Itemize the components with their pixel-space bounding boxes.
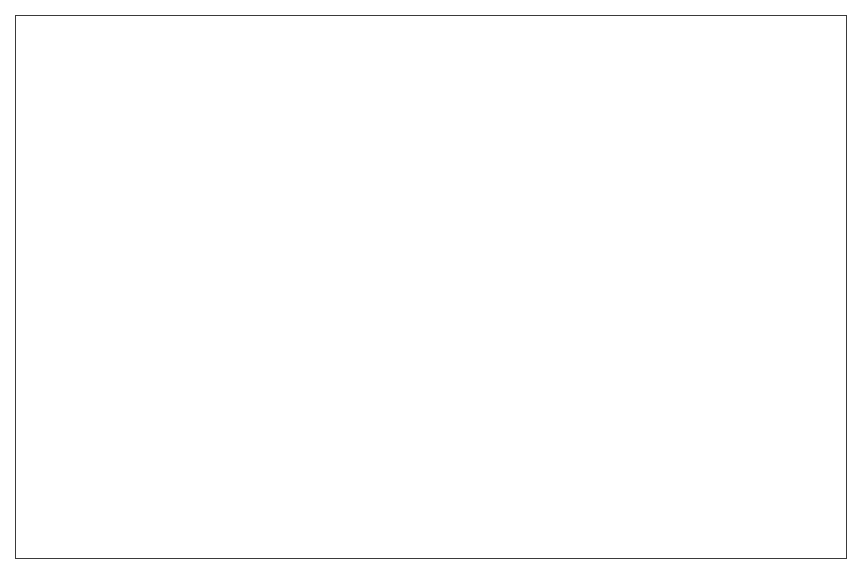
figure-frame	[15, 15, 847, 559]
chart-root: 02,0004,0006,0008,00010,000 010,00020,00…	[0, 0, 862, 576]
